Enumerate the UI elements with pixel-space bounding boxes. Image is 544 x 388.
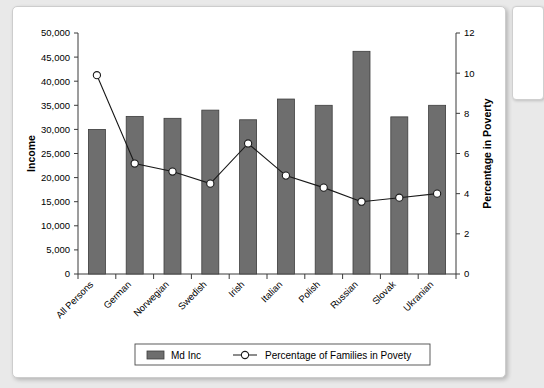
- y-axis-right-title: Percentage in Poverty: [481, 98, 493, 208]
- y-axis-right-tick-label: 8: [464, 108, 469, 119]
- chart-card: 05,00010,00015,00020,00025,00030,00035,0…: [12, 6, 506, 378]
- y-axis-left-tick-label: 5,000: [46, 244, 70, 255]
- poverty-marker-polish: [320, 184, 327, 191]
- y-axis-left-tick-label: 20,000: [41, 172, 70, 183]
- y-axis-right-tick-label: 12: [464, 27, 475, 38]
- poverty-line: [97, 75, 437, 202]
- y-axis-left-tick-label: 40,000: [41, 76, 70, 87]
- poverty-marker-slovak: [396, 194, 403, 201]
- poverty-marker-russian: [358, 198, 365, 205]
- legend-label-poverty: Percentage of Families in Povety: [265, 350, 411, 361]
- x-axis-label-all-persons: All Persons: [54, 278, 96, 320]
- bar-swedish: [202, 110, 219, 274]
- x-axis-label-polish: Polish: [296, 279, 322, 305]
- poverty-marker-swedish: [207, 180, 214, 187]
- legend-swatch-md-inc: [147, 351, 164, 359]
- bar-german: [126, 116, 143, 274]
- y-axis-left-tick-label: 10,000: [41, 220, 70, 231]
- bar-norwegian: [164, 118, 181, 274]
- bar-all-persons: [88, 129, 105, 274]
- y-axis-right-tick-label: 2: [464, 228, 469, 239]
- legend-marker-poverty: [241, 351, 248, 358]
- y-axis-left-tick-label: 50,000: [41, 27, 70, 38]
- y-axis-right-tick-label: 0: [464, 268, 469, 279]
- bar-russian: [353, 51, 370, 274]
- poverty-marker-norwegian: [169, 168, 176, 175]
- y-axis-left-title: Income: [25, 135, 37, 172]
- x-axis-label-italian: Italian: [259, 279, 285, 305]
- x-axis-label-swedish: Swedish: [176, 279, 209, 312]
- y-axis-left-tick-label: 15,000: [41, 196, 70, 207]
- legend-label-md-inc: Md Inc: [171, 350, 201, 361]
- poverty-marker-german: [131, 160, 138, 167]
- background-card: [512, 6, 544, 100]
- y-axis-right-tick-label: 6: [464, 148, 469, 159]
- income-poverty-chart: 05,00010,00015,00020,00025,00030,00035,0…: [13, 7, 505, 377]
- x-axis-label-irish: Irish: [226, 279, 246, 299]
- x-axis-label-norwegian: Norwegian: [131, 279, 171, 319]
- y-axis-right-tick-label: 10: [464, 68, 475, 79]
- y-axis-left-tick-label: 25,000: [41, 148, 70, 159]
- bar-italian: [277, 99, 294, 274]
- y-axis-right-tick-label: 4: [464, 188, 469, 199]
- poverty-marker-ukranian: [434, 190, 441, 197]
- y-axis-left-tick-label: 35,000: [41, 100, 70, 111]
- y-axis-left-tick-label: 30,000: [41, 124, 70, 135]
- x-axis-label-german: German: [101, 279, 133, 311]
- x-axis-label-ukranian: Ukranian: [401, 279, 436, 314]
- x-axis-label-russian: Russian: [328, 279, 360, 311]
- poverty-marker-irish: [245, 140, 252, 147]
- x-axis-label-slovak: Slovak: [370, 278, 398, 306]
- poverty-marker-italian: [282, 172, 289, 179]
- y-axis-left-tick-label: 45,000: [41, 52, 70, 63]
- poverty-marker-all-persons: [93, 72, 100, 79]
- y-axis-left-tick-label: 0: [65, 268, 70, 279]
